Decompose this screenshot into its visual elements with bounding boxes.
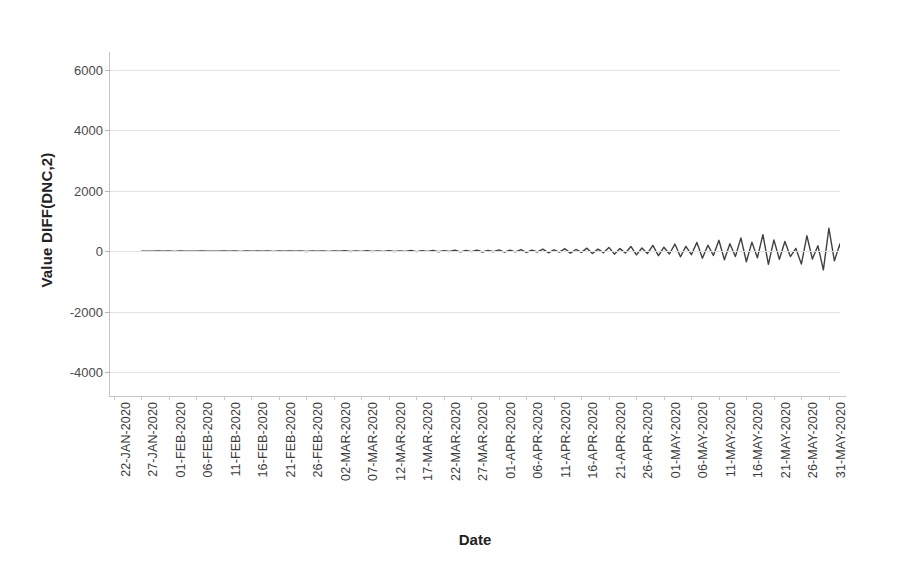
x-tick-mark <box>719 396 720 400</box>
x-tick-mark <box>279 396 280 400</box>
x-tick-label: 11-MAY-2020 <box>724 402 738 477</box>
x-tick-label: 21-MAY-2020 <box>779 402 793 478</box>
y-axis-title: Value DIFF(DNC,2) <box>26 40 66 400</box>
x-tick-mark <box>554 396 555 400</box>
x-tick-mark <box>581 396 582 400</box>
x-tick-mark <box>416 396 417 400</box>
y-tick-mark <box>105 312 110 313</box>
x-tick-label: 12-MAR-2020 <box>394 402 408 481</box>
x-tick-mark <box>141 396 142 400</box>
x-tick-mark <box>169 396 170 400</box>
gridline <box>110 312 840 313</box>
x-tick-label: 22-MAR-2020 <box>449 402 463 481</box>
x-tick-label: 21-APR-2020 <box>614 402 628 479</box>
x-tick-mark <box>361 396 362 400</box>
x-tick-mark <box>306 396 307 400</box>
x-tick-mark <box>444 396 445 400</box>
x-tick-label: 11-APR-2020 <box>559 402 573 478</box>
gridline <box>110 251 840 252</box>
x-tick-label: 06-APR-2020 <box>531 402 545 479</box>
series-line <box>110 52 840 396</box>
x-axis-ticks: 22-JAN-202027-JAN-202001-FEB-202006-FEB-… <box>110 396 840 531</box>
x-tick-label: 01-APR-2020 <box>504 402 518 479</box>
y-tick-label: -2000 <box>70 304 103 319</box>
x-tick-mark <box>334 396 335 400</box>
x-tick-label: 07-MAR-2020 <box>366 402 380 481</box>
plot-area: 6000400020000-2000-4000 <box>110 52 840 396</box>
y-tick-label: -4000 <box>70 364 103 379</box>
y-tick-label: 2000 <box>74 183 103 198</box>
x-tick-mark <box>196 396 197 400</box>
x-tick-mark <box>499 396 500 400</box>
x-tick-mark <box>774 396 775 400</box>
x-tick-mark <box>609 396 610 400</box>
x-tick-mark <box>664 396 665 400</box>
gridline <box>110 70 840 71</box>
x-tick-label: 06-FEB-2020 <box>201 402 215 477</box>
x-tick-mark <box>636 396 637 400</box>
x-tick-mark <box>801 396 802 400</box>
y-tick-mark <box>105 191 110 192</box>
y-axis-spine <box>109 52 110 396</box>
x-tick-mark <box>471 396 472 400</box>
y-tick-label: 6000 <box>74 63 103 78</box>
x-tick-mark <box>746 396 747 400</box>
x-tick-label: 16-FEB-2020 <box>256 402 270 477</box>
y-tick-label: 0 <box>96 244 103 259</box>
x-tick-label: 21-FEB-2020 <box>284 402 298 477</box>
x-tick-label: 26-MAY-2020 <box>806 402 820 478</box>
x-tick-label: 17-MAR-2020 <box>421 402 435 481</box>
x-tick-label: 27-MAR-2020 <box>476 402 490 481</box>
x-tick-mark <box>114 396 115 400</box>
x-tick-label: 02-MAR-2020 <box>339 402 353 481</box>
x-tick-mark <box>389 396 390 400</box>
x-tick-label: 01-MAY-2020 <box>669 402 683 478</box>
x-tick-label: 26-FEB-2020 <box>311 402 325 477</box>
x-axis-title: Date <box>110 531 840 548</box>
y-tick-mark <box>105 130 110 131</box>
y-tick-label: 4000 <box>74 123 103 138</box>
x-tick-label: 11-FEB-2020 <box>229 402 243 477</box>
x-tick-label: 31-MAY-2020 <box>834 402 848 478</box>
x-tick-label: 06-MAY-2020 <box>696 402 710 478</box>
x-tick-mark <box>526 396 527 400</box>
x-tick-label: 26-APR-2020 <box>641 402 655 479</box>
gridline <box>110 191 840 192</box>
x-tick-mark <box>224 396 225 400</box>
x-tick-label: 16-APR-2020 <box>586 402 600 479</box>
x-tick-mark <box>829 396 830 400</box>
x-tick-label: 01-FEB-2020 <box>174 402 188 477</box>
y-tick-mark <box>105 372 110 373</box>
y-tick-mark <box>105 251 110 252</box>
y-tick-mark <box>105 70 110 71</box>
gridline <box>110 130 840 131</box>
x-tick-mark <box>691 396 692 400</box>
x-tick-label: 16-MAY-2020 <box>751 402 765 478</box>
x-tick-label: 22-JAN-2020 <box>119 402 133 477</box>
x-tick-label: 27-JAN-2020 <box>146 402 160 477</box>
x-tick-mark <box>251 396 252 400</box>
gridline <box>110 372 840 373</box>
time-series-chart: Value DIFF(DNC,2) 6000400020000-2000-400… <box>0 0 904 575</box>
